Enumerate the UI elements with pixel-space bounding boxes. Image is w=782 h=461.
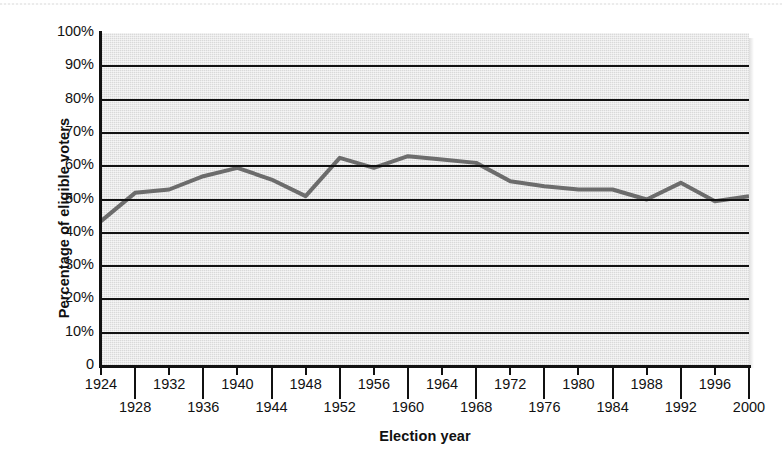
x-tick-label-upper: 1964	[416, 376, 468, 392]
x-tick-label-upper: 1980	[552, 376, 604, 392]
y-tick-label: 0	[36, 356, 94, 372]
y-tick-label: 50%	[36, 190, 94, 206]
x-tick-separator	[748, 375, 750, 399]
y-tick-label: 70%	[36, 123, 94, 139]
x-tick-mark	[134, 366, 136, 375]
x-tick-separator	[543, 375, 545, 399]
x-tick-mark	[100, 366, 102, 375]
gridline	[101, 298, 749, 300]
x-tick-label-lower: 2000	[723, 399, 775, 415]
x-tick-mark	[236, 366, 238, 375]
gridline	[101, 65, 749, 67]
x-tick-separator	[612, 375, 614, 399]
x-tick-separator	[271, 375, 273, 399]
x-tick-label-lower: 1984	[587, 399, 639, 415]
x-tick-mark	[612, 366, 614, 375]
gridline	[101, 132, 749, 134]
x-tick-mark	[373, 366, 375, 375]
x-tick-label-lower: 1968	[450, 399, 502, 415]
x-tick-mark	[441, 366, 443, 375]
y-tick-label: 20%	[36, 289, 94, 305]
x-tick-mark	[271, 366, 273, 375]
x-tick-label-lower: 1928	[109, 399, 161, 415]
x-tick-separator	[202, 375, 204, 399]
panel-shadow	[749, 38, 754, 368]
scan-edge-artifact	[0, 3, 782, 5]
x-tick-mark	[543, 366, 545, 375]
x-tick-separator	[475, 375, 477, 399]
gridline	[101, 232, 749, 234]
x-tick-label-upper: 1996	[689, 376, 741, 392]
y-tick-label: 90%	[36, 56, 94, 72]
x-tick-mark	[407, 366, 409, 375]
y-tick-label: 10%	[36, 323, 94, 339]
y-tick-label: 60%	[36, 156, 94, 172]
chart-figure: Percentage of eligible voters 010%20%30%…	[0, 0, 782, 461]
x-tick-label-lower: 1960	[382, 399, 434, 415]
x-tick-label-lower: 1944	[246, 399, 298, 415]
gridline	[101, 199, 749, 201]
gridline	[101, 265, 749, 267]
x-axis-title: Election year	[101, 428, 749, 444]
y-tick-label: 40%	[36, 223, 94, 239]
x-tick-label-lower: 1992	[655, 399, 707, 415]
x-tick-label-upper: 1940	[211, 376, 263, 392]
y-tick-label: 30%	[36, 256, 94, 272]
x-tick-mark	[168, 366, 170, 375]
x-tick-label-lower: 1976	[518, 399, 570, 415]
x-tick-separator	[407, 375, 409, 399]
x-tick-label-upper: 1988	[621, 376, 673, 392]
x-tick-mark	[714, 366, 716, 375]
x-tick-label-upper: 1972	[484, 376, 536, 392]
plot-area	[101, 33, 749, 366]
x-tick-label-lower: 1936	[177, 399, 229, 415]
x-tick-label-upper: 1956	[348, 376, 400, 392]
x-tick-label-upper: 1924	[75, 376, 127, 392]
x-tick-mark	[509, 366, 511, 375]
x-tick-separator	[339, 375, 341, 399]
x-tick-mark	[748, 366, 750, 375]
x-tick-mark	[475, 366, 477, 375]
gridline	[101, 165, 749, 167]
x-tick-separator	[680, 375, 682, 399]
y-tick-label: 100%	[36, 23, 94, 39]
x-tick-label-upper: 1948	[280, 376, 332, 392]
x-tick-mark	[339, 366, 341, 375]
x-tick-label-upper: 1932	[143, 376, 195, 392]
x-tick-label-lower: 1952	[314, 399, 366, 415]
y-tick-label: 80%	[36, 90, 94, 106]
x-tick-mark	[646, 366, 648, 375]
x-tick-separator	[134, 375, 136, 399]
gridline	[101, 99, 749, 101]
x-tick-mark	[680, 366, 682, 375]
x-tick-mark	[577, 366, 579, 375]
x-tick-mark	[202, 366, 204, 375]
x-tick-mark	[305, 366, 307, 375]
gridline	[101, 332, 749, 334]
x-axis-line	[99, 365, 751, 368]
y-axis-line	[99, 31, 102, 368]
